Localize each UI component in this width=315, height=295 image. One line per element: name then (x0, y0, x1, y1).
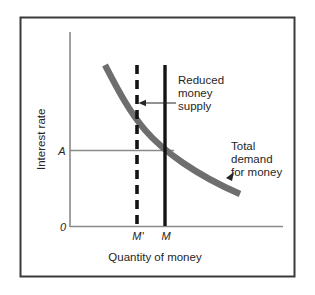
demand-label-line3: for money (231, 166, 282, 178)
x-tick-label-m-prime: M' (132, 230, 144, 242)
reduced-supply-label-line1: Reduced (178, 74, 224, 86)
demand-label-line1: Total (231, 140, 255, 152)
reduced-supply-label-line3: supply (178, 100, 211, 112)
x-tick-label-m: M (161, 230, 171, 242)
y-axis-label: Interest rate (35, 109, 47, 170)
x-axis-label: Quantity of money (108, 251, 202, 263)
demand-label-line2: demand (231, 153, 273, 165)
origin-label: 0 (60, 221, 67, 233)
money-market-diagram: Interest rate Quantity of money 0 A M' M… (0, 0, 315, 295)
reduced-supply-label-line2: money (178, 87, 213, 99)
y-tick-label-a: A (57, 145, 65, 157)
figure-container: Interest rate Quantity of money 0 A M' M… (0, 0, 315, 295)
